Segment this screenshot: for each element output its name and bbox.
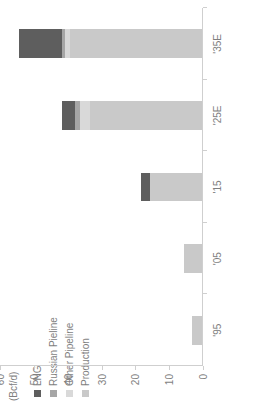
value-axis-tick-label: 60	[0, 374, 6, 385]
value-axis-tick-label: 50	[28, 374, 39, 385]
bar-stack[interactable]	[19, 30, 202, 59]
bar-segment[interactable]	[90, 101, 202, 130]
category-axis-tick	[203, 293, 207, 294]
category-axis-tick-label: '35E	[212, 34, 223, 54]
value-axis-tick	[169, 366, 170, 370]
category-axis-line	[202, 8, 203, 366]
value-axis-tick-label: 20	[130, 374, 141, 385]
value-axis-tick	[0, 366, 1, 370]
bar-segment[interactable]	[141, 173, 149, 202]
axis-unit-label: (Bcf/d)	[8, 372, 19, 401]
category-axis-tick	[203, 7, 207, 8]
bar-segment[interactable]	[19, 30, 61, 59]
chart-figure: (Bcf/d) LNGRussian PielineOther Pipeline…	[0, 0, 263, 403]
category-axis-tick	[203, 79, 207, 80]
bar-stack[interactable]	[192, 316, 202, 345]
value-axis-tick	[135, 366, 136, 370]
bar-segment[interactable]	[192, 316, 202, 345]
bar-stack[interactable]	[62, 101, 202, 130]
rotated-chart-wrapper: (Bcf/d) LNGRussian PielineOther Pipeline…	[0, 0, 263, 403]
category-axis-tick	[203, 150, 207, 151]
plot-area: 0102030405060'95'05'15'25E'35E	[0, 8, 203, 366]
bar-stack[interactable]	[184, 244, 202, 273]
value-axis-tick-label: 0	[198, 374, 209, 380]
legend-swatch-icon	[50, 390, 57, 397]
value-axis-tick	[68, 366, 69, 370]
category-axis-tick-label: '25E	[212, 106, 223, 126]
bar-segment[interactable]	[80, 101, 90, 130]
bar-stack[interactable]	[141, 173, 202, 202]
bar-segment[interactable]	[70, 30, 202, 59]
bar-segment[interactable]	[184, 244, 202, 273]
value-axis-tick-label: 40	[62, 374, 73, 385]
legend-swatch-icon	[66, 390, 73, 397]
legend-swatch-icon	[34, 390, 41, 397]
value-axis-tick	[203, 366, 204, 370]
category-axis-tick-label: '15	[212, 180, 223, 193]
value-axis-tick-label: 30	[96, 374, 107, 385]
category-axis-tick-label: '95	[212, 324, 223, 337]
value-axis-tick	[102, 366, 103, 370]
bar-segment[interactable]	[62, 101, 76, 130]
value-axis-tick-label: 10	[164, 374, 175, 385]
legend-swatch-icon	[82, 390, 89, 397]
category-axis-tick	[203, 222, 207, 223]
category-axis-tick-label: '05	[212, 252, 223, 265]
value-axis-tick	[34, 366, 35, 370]
bar-segment[interactable]	[150, 173, 202, 202]
